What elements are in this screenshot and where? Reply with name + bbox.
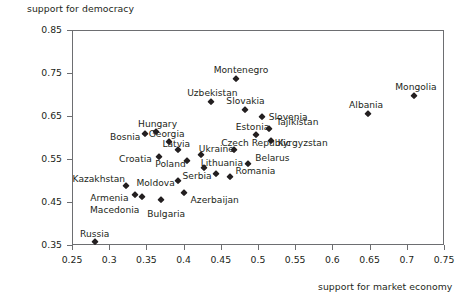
x-tick-mark — [370, 245, 371, 250]
y-tick-label: 0.35 — [28, 239, 62, 250]
x-tick-label: 0.65 — [350, 254, 390, 265]
y-tick-label: 0.45 — [28, 196, 62, 207]
y-tick-mark — [67, 202, 72, 203]
x-tick-mark — [332, 245, 333, 250]
x-axis-title: support for market economy — [318, 281, 452, 292]
y-tick-label: 0.55 — [28, 153, 62, 164]
x-tick-label: 0.3 — [89, 254, 129, 265]
x-tick-mark — [258, 245, 259, 250]
y-tick-mark — [67, 73, 72, 74]
x-tick-label: 0.7 — [387, 254, 427, 265]
x-tick-mark — [72, 245, 73, 250]
x-tick-label: 0.5 — [238, 254, 278, 265]
x-tick-label: 0.55 — [275, 254, 315, 265]
x-tick-mark — [295, 245, 296, 250]
x-tick-mark — [184, 245, 185, 250]
y-tick-mark — [67, 159, 72, 160]
x-tick-label: 0.45 — [201, 254, 241, 265]
scatter-chart: support for democracy support for market… — [0, 0, 462, 303]
y-tick-label: 0.75 — [28, 67, 62, 78]
x-tick-label: 0.35 — [126, 254, 166, 265]
plot-area — [72, 30, 444, 245]
x-tick-label: 0.25 — [52, 254, 92, 265]
x-tick-mark — [146, 245, 147, 250]
x-tick-mark — [444, 245, 445, 250]
x-tick-label: 0.4 — [164, 254, 204, 265]
y-tick-mark — [67, 30, 72, 31]
y-tick-mark — [67, 116, 72, 117]
x-tick-label: 0.6 — [312, 254, 352, 265]
y-tick-label: 0.85 — [28, 24, 62, 35]
x-tick-mark — [407, 245, 408, 250]
y-axis-title: support for democracy — [27, 3, 134, 14]
x-tick-mark — [109, 245, 110, 250]
x-tick-mark — [221, 245, 222, 250]
y-tick-label: 0.65 — [28, 110, 62, 121]
x-tick-label: 0.75 — [424, 254, 462, 265]
